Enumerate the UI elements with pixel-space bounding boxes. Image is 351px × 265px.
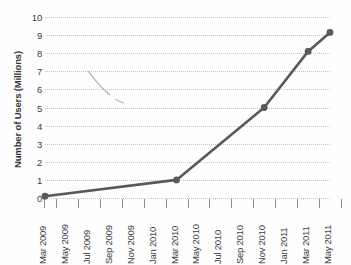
scan-artifact-mark <box>0 0 351 265</box>
line-chart: Number of Users (Millions) 012345678910 … <box>0 0 351 265</box>
